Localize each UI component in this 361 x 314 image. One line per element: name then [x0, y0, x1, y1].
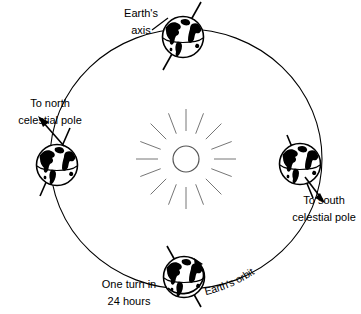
earth-globe-top	[163, 2, 204, 70]
earth-globe-left	[37, 116, 78, 196]
label-earths-orbit: Earth's orbit	[203, 265, 256, 297]
north-pole-line2: celestial pole	[18, 114, 82, 126]
label-to-south-celestial-pole: To south celestial pole	[292, 194, 356, 223]
south-pole-line2: celestial pole	[292, 211, 356, 223]
earths-orbit-text: Earth's orbit	[203, 265, 256, 297]
label-one-turn-in-24-hours: One turn in 24 hours	[102, 278, 156, 307]
earth-orbit-diagram: Earth's axis To north celestial pole To …	[0, 0, 361, 314]
sun-core	[173, 146, 199, 172]
label-to-north-celestial-pole: To north celestial pole	[18, 97, 82, 126]
earths-axis-line2: axis	[131, 24, 151, 36]
south-pole-line1: To south	[303, 194, 345, 206]
one-turn-line2: 24 hours	[108, 295, 151, 307]
sun	[136, 109, 236, 209]
earths-axis-line1: Earth's	[124, 7, 158, 19]
diagram-canvas: Earth's axis To north celestial pole To …	[0, 0, 361, 314]
label-earths-axis: Earth's axis	[124, 7, 158, 36]
earth-globe-bottom	[164, 246, 205, 307]
one-turn-line1: One turn in	[102, 278, 156, 290]
north-pole-line1: To north	[30, 97, 70, 109]
earth-globe-right	[280, 135, 326, 203]
